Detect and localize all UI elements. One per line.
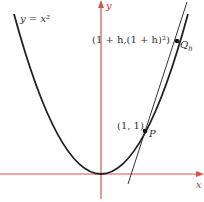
curve-label-eq: = [26, 13, 41, 24]
secant-line [128, 2, 187, 184]
point-q-name: Q [180, 39, 188, 50]
point-p-label: P [149, 129, 156, 139]
point-q-subscript: h [188, 45, 193, 53]
y-axis-label: y [106, 1, 112, 11]
curve-label: y = x² [20, 14, 50, 24]
point-q [175, 39, 180, 44]
y-axis-arrow-icon [98, 0, 104, 8]
point-p-coords: (1, 1) [117, 121, 144, 131]
point-q-coords: (1 + h,(1 + h)²) [92, 35, 170, 45]
curve-label-x2: x² [40, 13, 50, 24]
x-axis-label: x [196, 180, 202, 190]
parabola-diagram [0, 0, 204, 202]
point-q-label: Qh [180, 40, 193, 53]
x-axis-arrow-icon [196, 171, 204, 177]
